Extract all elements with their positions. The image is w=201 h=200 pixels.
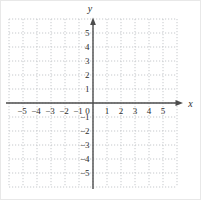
- y-tick-label: 5: [85, 28, 90, 38]
- x-tick-label: 2: [119, 106, 124, 116]
- x-tick-label: −5: [17, 106, 27, 116]
- y-tick-label: 2: [85, 70, 90, 80]
- figure-frame: [1, 1, 201, 200]
- y-tick-label: 1: [85, 84, 90, 94]
- y-tick-label: 4: [85, 42, 90, 52]
- y-tick-label: −3: [80, 140, 90, 150]
- y-tick-label: −5: [80, 168, 90, 178]
- y-tick-label: −2: [80, 126, 90, 136]
- coordinate-plane-figure: −5−4−3−2−1012345 −5−4−3−2−112345 x y: [0, 0, 201, 200]
- x-axis-label: x: [187, 98, 193, 109]
- x-tick-label: 1: [105, 106, 110, 116]
- x-tick-label: −4: [31, 106, 41, 116]
- y-tick-label: −4: [80, 154, 90, 164]
- coordinate-plane: −5−4−3−2−1012345 −5−4−3−2−112345 x y: [0, 0, 201, 200]
- x-axis-tick-labels: −5−4−3−2−1012345: [17, 106, 166, 116]
- y-tick-label: 3: [85, 56, 90, 66]
- x-axis-arrowhead-icon: [176, 100, 184, 106]
- axes: [6, 18, 183, 190]
- x-tick-label: −2: [59, 106, 69, 116]
- x-tick-label: 4: [147, 106, 152, 116]
- x-tick-label: 3: [133, 106, 138, 116]
- y-tick-label: −1: [80, 112, 90, 122]
- x-tick-label: 5: [161, 106, 166, 116]
- y-axis-label: y: [87, 3, 93, 14]
- x-tick-label: −3: [45, 106, 55, 116]
